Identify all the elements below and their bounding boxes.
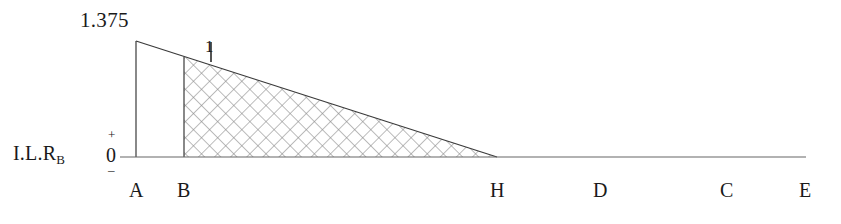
station-label-c: C [720,180,733,200]
influence-line-axis-label: I.L.RB [13,143,65,166]
sign-positive-marker: + [108,128,115,141]
axis-label-subscript: B [56,152,65,167]
axis-label-main: I.L.R [13,142,56,164]
sign-negative-marker: – [108,163,115,176]
ordinate-value-label: 1 [205,38,214,55]
station-label-a: A [129,180,143,200]
station-label-e: E [799,180,811,200]
station-label-h: H [490,180,504,200]
unhatched-area-A-to-B [136,41,184,157]
peak-value-label: 1.375 [80,10,129,31]
station-label-d: D [593,180,607,200]
influence-line-diagram: 1.375 1 I.L.RB + 0 – ABHDCE [0,0,841,224]
influence-line-plot [0,0,841,224]
station-label-b: B [177,180,190,200]
